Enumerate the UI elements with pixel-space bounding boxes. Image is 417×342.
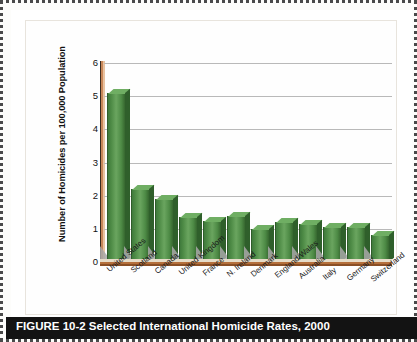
y-axis-tick-labels: 6543210 <box>74 63 98 262</box>
y-axis-title: Number of Homicides per 100,000 Populati… <box>57 44 67 244</box>
x-tick-label: Italy <box>321 266 338 282</box>
figure-caption-bar: FIGURE 10-2 Selected International Homic… <box>6 317 417 339</box>
bar <box>107 93 131 262</box>
gridline-4 <box>104 129 392 130</box>
chart-plate: Number of Homicides per 100,000 Populati… <box>25 20 397 315</box>
bar-body <box>107 93 125 262</box>
y-tick-label-1: 1 <box>76 223 98 234</box>
y-tick-label-3: 3 <box>76 157 98 168</box>
y-tick-label-6: 6 <box>76 57 98 68</box>
figure-caption: FIGURE 10-2 Selected International Homic… <box>16 320 330 332</box>
gridline-6 <box>104 63 392 64</box>
y-tick-label-2: 2 <box>76 190 98 201</box>
bar-body <box>155 199 173 262</box>
gridline-5 <box>104 96 392 97</box>
bar-body <box>227 216 245 262</box>
y-tick-label-4: 4 <box>76 123 98 134</box>
gridline-3 <box>104 163 392 164</box>
bar-body <box>323 227 341 262</box>
page-frame: Number of Homicides per 100,000 Populati… <box>0 0 417 342</box>
figure-card: Number of Homicides per 100,000 Populati… <box>11 10 412 323</box>
plot-area <box>104 63 392 262</box>
y-tick-label-0: 0 <box>76 256 98 267</box>
bar-side-face <box>125 89 130 262</box>
bar-body <box>347 227 365 262</box>
y-tick-label-5: 5 <box>76 90 98 101</box>
